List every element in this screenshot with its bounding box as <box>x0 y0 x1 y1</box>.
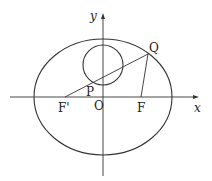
point-f-label: F <box>137 101 145 115</box>
segment-q-f <box>141 54 148 97</box>
x-axis-arrow-icon <box>193 95 199 99</box>
diagram-canvas: y x O F' F P Q <box>0 0 212 181</box>
x-axis-label: x <box>194 101 201 115</box>
origin-label: O <box>94 99 104 113</box>
y-axis-label: y <box>89 9 97 23</box>
diagram-svg: y x O F' F P Q <box>0 0 212 181</box>
y-axis-arrow-icon <box>101 13 105 19</box>
point-f-prime-label: F' <box>58 101 70 115</box>
point-q-label: Q <box>149 41 159 55</box>
point-p-label: P <box>86 85 94 99</box>
segment-fprime-q <box>65 54 148 97</box>
